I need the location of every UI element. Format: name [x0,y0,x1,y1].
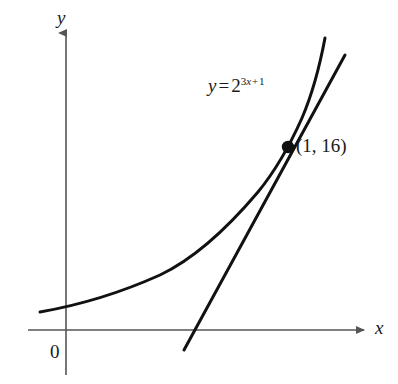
curve-equation-label: y=23x + 1 [208,76,265,95]
exponent-sign: + [252,75,258,87]
point-coordinate-label: (1, 16) [296,136,347,155]
figure-container: y x 0 y=23x + 1 (1, 16) [0,0,398,384]
y-axis-label: y [57,8,65,27]
exponential-curve [40,38,325,312]
origin-label: 0 [50,342,60,361]
x-axis-label: x [375,318,383,337]
equation-relation: = [216,75,231,96]
graph-canvas [0,0,398,384]
tangent-point-dot [282,141,294,153]
exponent-variable: x [246,75,251,87]
exponent-constant: 1 [259,75,265,87]
equation-exponent: 3x + 1 [241,75,265,87]
equation-base: 2 [231,75,241,96]
tangent-line [184,55,345,350]
